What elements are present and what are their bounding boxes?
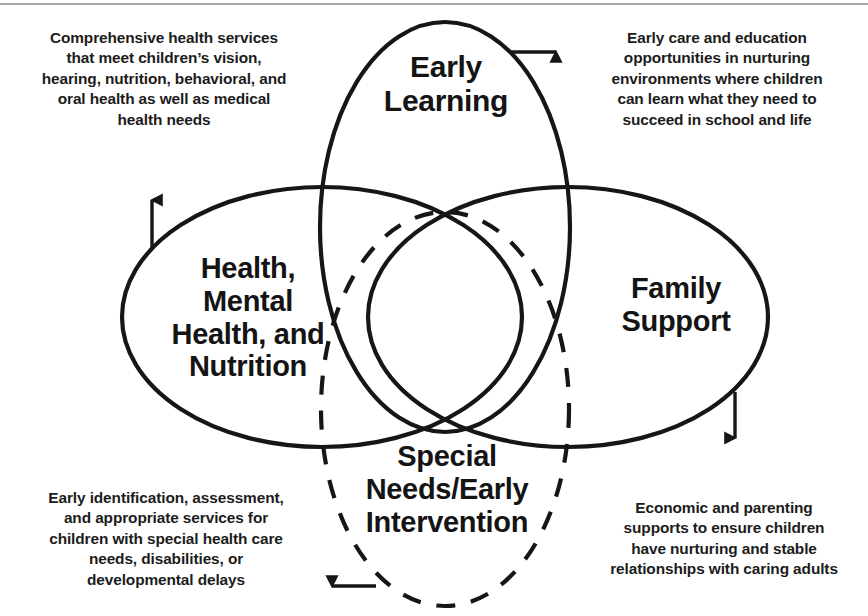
circle-special-needs-early-intervention: [321, 212, 569, 606]
callout-early-learning: Early care and education opportunities i…: [572, 28, 862, 130]
callout-special-line-5: developmental delays: [8, 570, 324, 590]
label-early-learning-line-2: Learning: [330, 84, 562, 118]
callout-family-line-4: relationships with caring adults: [584, 559, 864, 579]
label-health-line-1: Health,: [150, 252, 346, 285]
label-health-mental-health-nutrition: Health, Mental Health, and Nutrition: [150, 252, 346, 383]
callout-health-line-4: oral health as well as medical: [14, 89, 314, 109]
callout-special-line-4: needs, disabilities, or: [8, 549, 324, 569]
label-health-line-2: Mental: [150, 285, 346, 318]
label-early-learning-line-1: Early: [330, 50, 562, 84]
callout-early-line-1: Early care and education: [572, 28, 862, 48]
callout-early-line-5: succeed in school and life: [572, 110, 862, 130]
callout-early-line-3: environments where children: [572, 69, 862, 89]
callout-early-line-2: opportunities in nurturing: [572, 48, 862, 68]
callout-health-line-5: health needs: [14, 110, 314, 130]
label-special-line-1: Special: [330, 440, 564, 473]
label-health-line-4: Nutrition: [150, 350, 346, 383]
callout-special-needs-early-intervention: Early identification, assessment, and ap…: [8, 488, 324, 590]
callout-special-line-2: and appropriate services for: [8, 508, 324, 528]
label-special-line-3: Intervention: [330, 506, 564, 539]
label-early-learning: Early Learning: [330, 50, 562, 118]
callout-family-line-1: Economic and parenting: [584, 498, 864, 518]
callout-family-support: Economic and parenting supports to ensur…: [584, 498, 864, 580]
callout-special-line-1: Early identification, assessment,: [8, 488, 324, 508]
callout-family-line-3: have nurturing and stable: [584, 539, 864, 559]
label-special-line-2: Needs/Early: [330, 473, 564, 506]
callout-early-line-4: can learn what they need to: [572, 89, 862, 109]
callout-health-line-1: Comprehensive health services: [14, 28, 314, 48]
callout-health-line-3: hearing, nutrition, behavioral, and: [14, 69, 314, 89]
label-family-support: Family Support: [588, 272, 764, 338]
callout-health-line-2: that meet children’s vision,: [14, 48, 314, 68]
label-family-line-1: Family: [588, 272, 764, 305]
callout-special-line-3: children with special health care: [8, 529, 324, 549]
label-family-line-2: Support: [588, 305, 764, 338]
callout-health-mental-health-nutrition: Comprehensive health services that meet …: [14, 28, 314, 130]
label-health-line-3: Health, and: [150, 318, 346, 351]
callout-family-line-2: supports to ensure children: [584, 518, 864, 538]
diagram-canvas: Early Learning Health, Mental Health, an…: [0, 0, 868, 616]
label-special-needs-early-intervention: Special Needs/Early Intervention: [330, 440, 564, 538]
